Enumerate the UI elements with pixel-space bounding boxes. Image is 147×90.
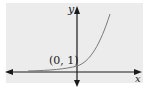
- y-axis-down-arrow-icon: [74, 80, 80, 87]
- x-axis-left-arrow-icon: [5, 69, 13, 75]
- y-axis-up-arrow-icon: [74, 6, 80, 14]
- x-axis-label: x: [135, 74, 141, 84]
- point-label: (0, 1): [49, 55, 79, 66]
- y-axis-label: y: [68, 4, 74, 15]
